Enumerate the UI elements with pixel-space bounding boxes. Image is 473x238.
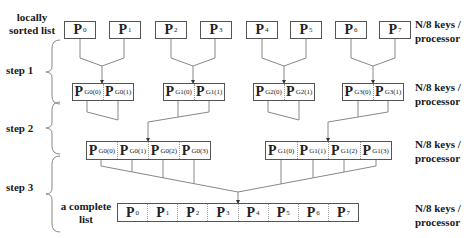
processor-box: P7: [379, 21, 411, 39]
group-box-g1: PG1(0) PG1(1): [163, 83, 225, 101]
processor-box: P0: [64, 21, 96, 39]
step2-label: step 2: [6, 121, 33, 135]
group-box-g3: PG3(0) PG3(1): [342, 83, 404, 101]
group-box-g1-merged: PG1(0) PG1(1) PG1(2) PG1(3): [265, 141, 392, 160]
locally-sorted-label: locally sorted list: [2, 11, 62, 37]
processor-box: P4: [246, 21, 278, 39]
keys-per-processor-label-row1: N/8 keys / processor: [415, 80, 473, 108]
processor-box: P3: [200, 21, 232, 39]
processor-box: P5: [290, 21, 322, 39]
keys-per-processor-label-row0: N/8 keys / processor: [415, 17, 473, 45]
keys-per-processor-label-row2: N/8 keys / processor: [415, 137, 473, 165]
keys-per-processor-label-row3: N/8 keys / processor: [415, 201, 473, 229]
processor-box: P1: [109, 21, 141, 39]
group-box-g0: PG0(0) PG0(1): [72, 83, 134, 101]
complete-list-box: P0 P1 P2 P3 P4 P5 P6 P7: [117, 203, 359, 222]
step3-label: step 3: [6, 180, 33, 194]
processor-box: P6: [335, 21, 367, 39]
step1-label: step 1: [6, 63, 33, 77]
group-box-g0-merged: PG0(0) PG0(1) PG0(2) PG0(3): [86, 141, 211, 160]
processor-box: P2: [155, 21, 187, 39]
complete-list-label: a complete list: [58, 200, 114, 226]
group-box-g2: PG2(0) PG2(1): [253, 83, 315, 101]
